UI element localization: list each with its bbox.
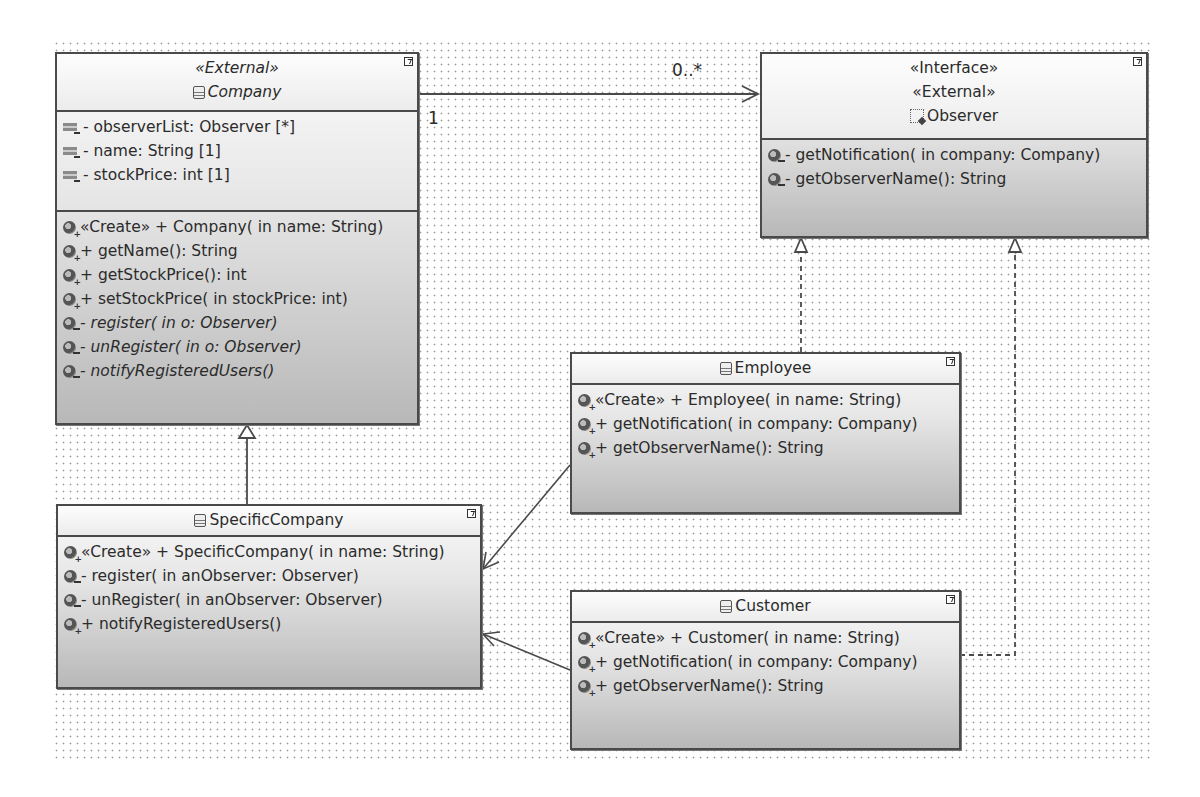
operations-compartment: «Create» + Customer( in name: String) + … bbox=[572, 623, 959, 698]
private-operation-icon bbox=[768, 173, 781, 186]
operation-row[interactable]: «Create» + Customer( in name: String) bbox=[578, 626, 953, 650]
class-customer[interactable]: Customer «Create» + Customer( in name: S… bbox=[570, 590, 961, 750]
private-operation-icon bbox=[768, 149, 781, 162]
class-name: Customer bbox=[720, 594, 810, 618]
private-operation-icon bbox=[64, 570, 77, 583]
class-icon bbox=[194, 514, 206, 527]
operation-row[interactable]: - unRegister( in o: Observer) bbox=[63, 335, 411, 359]
stereotype-label: «Interface» bbox=[762, 56, 1146, 80]
operation-row[interactable]: - getNotification( in company: Company) bbox=[768, 143, 1140, 167]
public-operation-icon bbox=[578, 656, 591, 669]
operation-row[interactable]: - getObserverName(): String bbox=[768, 167, 1140, 191]
multiplicity-target: 0..* bbox=[672, 60, 702, 80]
operations-compartment: «Create» + Employee( in name: String) + … bbox=[572, 385, 959, 460]
operation-row[interactable]: + getObserverName(): String bbox=[578, 674, 953, 698]
public-operation-icon bbox=[578, 632, 591, 645]
expand-icon[interactable] bbox=[1133, 57, 1142, 66]
operation-row[interactable]: - unRegister( in anObserver: Observer) bbox=[64, 588, 474, 612]
public-operation-icon bbox=[63, 293, 76, 306]
class-name: SpecificCompany bbox=[194, 508, 343, 532]
class-name: Company bbox=[193, 80, 282, 104]
operation-row[interactable]: + getStockPrice(): int bbox=[63, 263, 411, 287]
public-operation-icon bbox=[63, 269, 76, 282]
public-operation-icon bbox=[64, 618, 77, 631]
expand-icon[interactable] bbox=[404, 57, 413, 66]
expand-icon[interactable] bbox=[946, 595, 955, 604]
public-operation-icon bbox=[578, 418, 591, 431]
operation-row[interactable]: + getNotification( in company: Company) bbox=[578, 412, 953, 436]
class-header: «External» Company bbox=[57, 54, 417, 112]
attribute-row[interactable]: - name: String [1] bbox=[63, 139, 411, 163]
interface-observer[interactable]: «Interface» «External» Observer - getNot… bbox=[760, 52, 1148, 238]
operations-compartment: - getNotification( in company: Company) … bbox=[762, 140, 1146, 191]
class-name: Observer bbox=[910, 104, 998, 128]
class-employee[interactable]: Employee «Create» + Employee( in name: S… bbox=[570, 352, 961, 514]
stereotype-label: «External» bbox=[762, 80, 1146, 104]
multiplicity-source: 1 bbox=[428, 108, 439, 128]
public-operation-icon bbox=[64, 546, 77, 559]
class-specific-company[interactable]: SpecificCompany «Create» + SpecificCompa… bbox=[56, 504, 482, 689]
attribute-row[interactable]: - observerList: Observer [*] bbox=[63, 115, 411, 139]
operation-row[interactable]: - register( in o: Observer) bbox=[63, 311, 411, 335]
class-icon bbox=[720, 362, 732, 375]
class-header: SpecificCompany bbox=[58, 506, 480, 537]
attribute-row[interactable]: - stockPrice: int [1] bbox=[63, 163, 411, 187]
class-header: Employee bbox=[572, 354, 959, 385]
private-operation-icon bbox=[63, 317, 76, 330]
class-icon bbox=[193, 86, 205, 99]
operation-row[interactable]: + getObserverName(): String bbox=[578, 436, 953, 460]
operation-row[interactable]: + getName(): String bbox=[63, 239, 411, 263]
operation-row[interactable]: + setStockPrice( in stockPrice: int) bbox=[63, 287, 411, 311]
class-icon bbox=[720, 600, 732, 613]
attribute-icon bbox=[63, 123, 77, 131]
attributes-compartment: - observerList: Observer [*] - name: Str… bbox=[57, 112, 417, 212]
operation-row[interactable]: «Create» + Company( in name: String) bbox=[63, 215, 411, 239]
class-header: «Interface» «External» Observer bbox=[762, 54, 1146, 140]
public-operation-icon bbox=[63, 245, 76, 258]
attribute-icon bbox=[63, 171, 77, 179]
expand-icon[interactable] bbox=[467, 509, 476, 518]
operation-row[interactable]: «Create» + SpecificCompany( in name: Str… bbox=[64, 540, 474, 564]
class-header: Customer bbox=[572, 592, 959, 623]
private-operation-icon bbox=[64, 594, 77, 607]
public-operation-icon bbox=[578, 680, 591, 693]
expand-icon[interactable] bbox=[946, 357, 955, 366]
operation-row[interactable]: + notifyRegisteredUsers() bbox=[64, 612, 474, 636]
operations-compartment: «Create» + SpecificCompany( in name: Str… bbox=[58, 537, 480, 636]
private-operation-icon bbox=[63, 365, 76, 378]
operation-row[interactable]: - register( in anObserver: Observer) bbox=[64, 564, 474, 588]
class-company[interactable]: «External» Company - observerList: Obser… bbox=[55, 52, 419, 425]
public-operation-icon bbox=[578, 442, 591, 455]
operation-row[interactable]: «Create» + Employee( in name: String) bbox=[578, 388, 953, 412]
operation-row[interactable]: - notifyRegisteredUsers() bbox=[63, 359, 411, 383]
class-name: Employee bbox=[720, 356, 812, 380]
stereotype-label: «External» bbox=[57, 56, 417, 80]
operation-row[interactable]: + getNotification( in company: Company) bbox=[578, 650, 953, 674]
public-operation-icon bbox=[578, 394, 591, 407]
attribute-icon bbox=[63, 147, 77, 155]
operations-compartment: «Create» + Company( in name: String) + g… bbox=[57, 212, 417, 383]
interface-icon bbox=[910, 109, 924, 123]
private-operation-icon bbox=[63, 341, 76, 354]
public-operation-icon bbox=[63, 221, 76, 234]
